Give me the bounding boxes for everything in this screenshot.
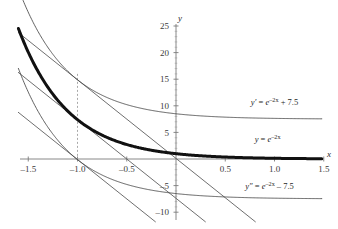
x-tick-label: –0.5 bbox=[118, 164, 135, 174]
y-axis-name: y bbox=[177, 13, 182, 23]
x-axis-name: x bbox=[326, 149, 331, 159]
y-tick-label: 5 bbox=[165, 128, 170, 138]
label-equals: = bbox=[258, 134, 267, 144]
y-tick-label: 25 bbox=[160, 21, 170, 31]
label-tail: + 7.5 bbox=[279, 97, 299, 107]
label-exponent: –2x bbox=[270, 133, 281, 140]
y-tick-label: –10 bbox=[155, 207, 170, 217]
label-tail: – 7.5 bbox=[275, 181, 294, 191]
x-tick-label: –1.0 bbox=[69, 164, 86, 174]
label-equals: = bbox=[253, 181, 262, 191]
label-equals: = bbox=[256, 97, 265, 107]
exponential-derivative-plot: –1.5–1.0–0.50.51.01.5 252015105–5–10 y′ … bbox=[0, 0, 338, 229]
y-tick-label: 20 bbox=[160, 48, 170, 58]
x-tick-label: 1.0 bbox=[269, 164, 281, 174]
plot-root: –1.5–1.0–0.50.51.01.5 252015105–5–10 y′ … bbox=[0, 0, 338, 229]
x-tick-label: 1.5 bbox=[318, 164, 330, 174]
x-tick-label: 0.5 bbox=[220, 164, 232, 174]
x-tick-label: –1.5 bbox=[19, 164, 36, 174]
y-tick-label: 10 bbox=[160, 101, 170, 111]
y-tick-label: 15 bbox=[160, 74, 170, 84]
plot-background bbox=[0, 0, 338, 229]
